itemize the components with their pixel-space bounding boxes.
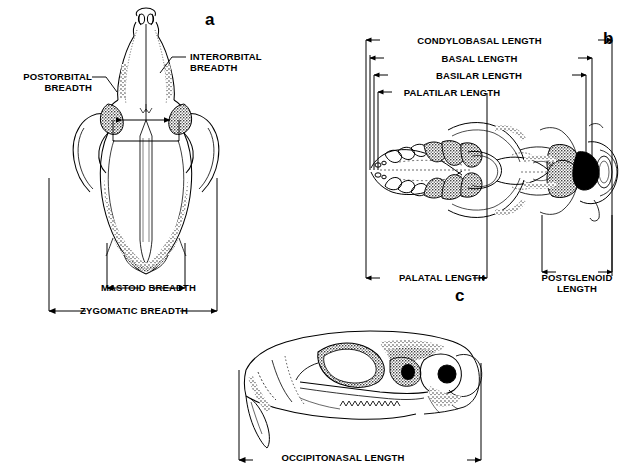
- postglenoid-length-label: POSTGLENOID LENGTH: [531, 272, 623, 294]
- palatilar-length-label: PALATILAR LENGTH: [392, 87, 512, 98]
- panel-a-letter: a: [205, 10, 214, 30]
- occipitonasal-length-label: OCCIPITONASAL LENGTH: [273, 452, 413, 463]
- interorbital-breadth-label: INTERORBITAL BREADTH: [190, 51, 300, 73]
- postorbital-breadth-label: POSTORBITAL BREADTH: [2, 71, 92, 93]
- basilar-length-label: BASILAR LENGTH: [424, 70, 534, 81]
- postorbital-leader-line: [92, 77, 117, 92]
- palatal-length-label: PALATAL LENGTH: [392, 272, 492, 283]
- skull-measurement-figure: POSTORBITAL BREADTH INTERORBITAL BREADTH…: [0, 0, 627, 475]
- panel-b-letter: b: [603, 29, 613, 49]
- condylobasal-length-label: CONDYLOBASAL LENGTH: [412, 35, 547, 46]
- zygomatic-breadth-label: ZYGOMATIC BREADTH: [80, 305, 186, 316]
- basal-length-label: BASAL LENGTH: [428, 53, 531, 64]
- panel-c-skull-drawing: [245, 331, 482, 448]
- mastoid-breadth-label: MASTOID BREADTH: [101, 282, 191, 293]
- panel-b-skull-drawing: [371, 123, 618, 221]
- panel-c-letter: c: [455, 286, 464, 306]
